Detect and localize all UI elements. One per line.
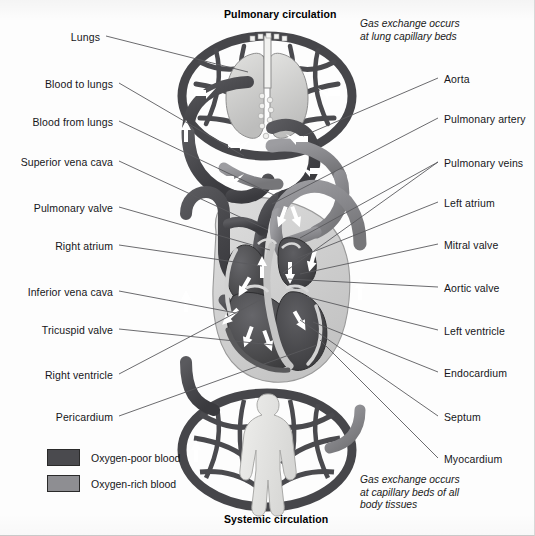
leader-blood-from-lungs xyxy=(119,121,276,196)
label-superior-vena-cava: Superior vena cava xyxy=(0,157,113,168)
legend-swatch-oxygen-rich xyxy=(47,475,80,492)
leader-inferior-vena-cava xyxy=(119,291,236,313)
label-left-atrium: Left atrium xyxy=(444,198,495,209)
label-aortic-valve: Aortic valve xyxy=(444,283,500,294)
leader-pulmonary-veins2 xyxy=(283,162,438,273)
legend-item-oxygen-rich: Oxygen-rich blood xyxy=(47,475,180,492)
leader-septum xyxy=(300,320,438,416)
label-pulmonary-veins: Pulmonary veins xyxy=(444,158,523,169)
legend-label-oxygen-poor: Oxygen-poor blood xyxy=(91,452,180,464)
note-lung-gas-exchange: Gas exchange occurs at lung capillary be… xyxy=(360,18,460,43)
circulation-diagram: Pulmonary circulation Systemic circulati… xyxy=(0,0,535,536)
leader-blood-to-lungs xyxy=(119,83,244,156)
leader-aortic-valve xyxy=(288,279,438,287)
label-myocardium: Myocardium xyxy=(444,454,502,465)
label-blood-from-lungs: Blood from lungs xyxy=(0,117,113,128)
label-septum: Septum xyxy=(444,412,481,423)
legend-label-oxygen-rich: Oxygen-rich blood xyxy=(91,478,176,490)
leader-superior-vena-cava xyxy=(119,161,268,230)
leader-tricuspid-valve xyxy=(119,329,273,345)
leader-pulmonary-veins xyxy=(300,162,438,238)
leader-endocardium xyxy=(313,322,438,372)
leader-right-ventricle xyxy=(119,299,262,374)
leader-aorta xyxy=(303,78,438,136)
label-endocardium: Endocardium xyxy=(444,368,507,379)
leader-pulmonary-artery xyxy=(272,118,438,204)
title-systemic: Systemic circulation xyxy=(224,513,328,525)
leader-right-atrium xyxy=(119,245,262,266)
leader-left-ventricle xyxy=(307,297,438,330)
label-aorta: Aorta xyxy=(444,74,470,85)
label-lungs: Lungs xyxy=(0,32,100,43)
leader-myocardium xyxy=(320,340,438,458)
legend: Oxygen-poor blood Oxygen-rich blood xyxy=(47,449,180,501)
label-pericardium: Pericardium xyxy=(0,412,113,423)
legend-item-oxygen-poor: Oxygen-poor blood xyxy=(47,449,180,466)
label-right-atrium: Right atrium xyxy=(0,241,113,252)
leader-left-atrium xyxy=(295,202,438,259)
label-inferior-vena-cava: Inferior vena cava xyxy=(0,287,113,298)
label-tricuspid-valve: Tricuspid valve xyxy=(0,325,113,336)
label-left-ventricle: Left ventricle xyxy=(444,326,505,337)
label-right-ventricle: Right ventricle xyxy=(0,370,113,381)
legend-swatch-oxygen-poor xyxy=(47,449,80,466)
label-mitral-valve: Mitral valve xyxy=(444,240,498,251)
leader-pericardium xyxy=(119,345,317,416)
label-blood-to-lungs: Blood to lungs xyxy=(0,79,113,90)
title-pulmonary: Pulmonary circulation xyxy=(224,8,336,20)
leader-lungs xyxy=(106,36,248,72)
label-pulmonary-artery: Pulmonary artery xyxy=(444,114,526,125)
note-tissue-gas-exchange: Gas exchange occurs at capillary beds of… xyxy=(360,474,460,512)
label-pulmonary-valve: Pulmonary valve xyxy=(0,203,113,214)
leader-pulmonary-valve xyxy=(119,207,270,250)
